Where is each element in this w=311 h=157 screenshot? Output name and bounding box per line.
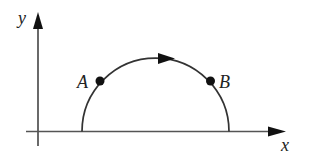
x-axis-label: x [280, 135, 289, 155]
y-axis-arrow-icon [33, 12, 43, 29]
direction-arrow-icon [158, 53, 175, 64]
y-axis-label: y [16, 8, 26, 28]
semicircle-path [82, 58, 229, 131]
point-a-dot [96, 77, 105, 86]
point-b-dot [206, 77, 215, 86]
point-a-label: A [76, 72, 89, 92]
y-axis [33, 12, 43, 146]
semicircle-motion-diagram: y x A B [0, 0, 311, 157]
x-axis [26, 127, 286, 137]
point-b-label: B [219, 72, 230, 92]
